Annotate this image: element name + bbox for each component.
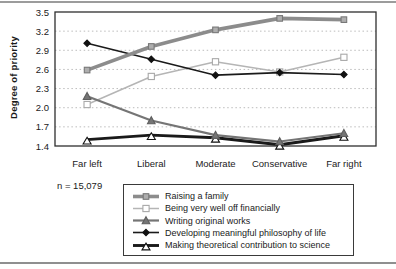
bottom-rule [0,262,396,264]
data-point-marker [212,59,218,65]
x-category-label: Far right [299,158,389,169]
y-tick-label: 1.7 [15,121,49,132]
figure-page: Degree of priority 1.41.72.02.32.62.93.2… [0,0,396,269]
y-tick-label: 3.2 [15,26,49,37]
data-point-marker [212,72,218,78]
y-tick-label: 2.0 [15,102,49,113]
legend-swatch-triangle-open-icon [132,240,160,251]
data-point-marker [148,73,154,79]
sample-size-note: n = 15,079 [57,180,102,191]
data-point-marker [341,71,347,77]
y-tick-label: 2.9 [15,45,49,56]
legend-item: Raising a family [132,190,347,202]
legend-label: Making theoretical contribution to scien… [165,240,330,250]
legend-item: Making theoretical contribution to scien… [132,239,347,251]
data-point-marker [149,44,155,50]
data-point-marker [143,205,149,211]
data-point-marker [143,230,149,236]
data-point-marker [84,101,90,107]
legend-swatch-square-open-icon [132,203,160,214]
legend-swatch-diamond-filled-icon [132,227,160,238]
y-tick-label: 1.4 [15,141,49,152]
y-tick-label: 2.3 [15,83,49,94]
legend-item: Developing meaningful philosophy of life [132,227,347,239]
data-point-marker [84,40,90,46]
data-point-marker [277,16,283,22]
data-point-marker [341,17,347,23]
y-tick-label: 3.5 [15,7,49,18]
priority-line-chart: Degree of priority 1.41.72.02.32.62.93.2… [0,0,396,269]
legend-item: Being very well off financially [132,202,347,214]
y-tick-label: 2.6 [15,64,49,75]
legend-item: Writing original works [132,215,347,227]
data-point-marker [84,67,90,73]
legend-label: Being very well off financially [165,203,280,213]
legend-box: Raising a familyBeing very well off fina… [123,184,354,256]
legend-swatch-square-filled-icon [132,191,160,202]
series-being-very-well-off-financially [84,54,347,107]
data-point-marker [143,193,149,199]
data-point-marker [213,27,219,33]
legend-label: Developing meaningful philosophy of life [165,228,326,238]
legend-swatch-triangle-filled-icon [132,215,160,226]
data-point-marker [341,54,347,60]
legend-label: Raising a family [165,191,229,201]
legend-label: Writing original works [165,216,250,226]
data-point-marker [83,92,91,99]
data-point-marker [148,56,154,62]
